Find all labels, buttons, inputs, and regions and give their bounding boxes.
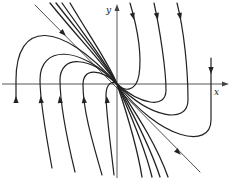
direction-arrow-icon <box>13 96 18 103</box>
trajectory-left-5 <box>106 82 117 175</box>
trajectories <box>13 3 213 177</box>
trajectory-right-3 <box>117 3 188 115</box>
x-axis-label: x <box>214 88 219 97</box>
trajectory-left-1 <box>16 35 117 100</box>
axes <box>2 4 229 178</box>
direction-arrow-icon <box>104 96 110 103</box>
y-axis-label: y <box>106 6 111 15</box>
phase-portrait <box>0 0 234 179</box>
direction-arrow-icon <box>174 148 183 157</box>
trajectory-right-1 <box>117 3 140 89</box>
x-axis-arrow-icon <box>222 82 229 87</box>
trajectory-right-2 <box>117 3 166 102</box>
direction-arrow-icon <box>38 96 44 103</box>
direction-arrow-icon <box>208 67 213 74</box>
trajectory-left-3 <box>60 62 117 172</box>
direction-arrow-icon <box>57 96 63 104</box>
y-axis-arrow-icon <box>115 4 120 11</box>
direction-arrow-icon <box>130 12 137 20</box>
